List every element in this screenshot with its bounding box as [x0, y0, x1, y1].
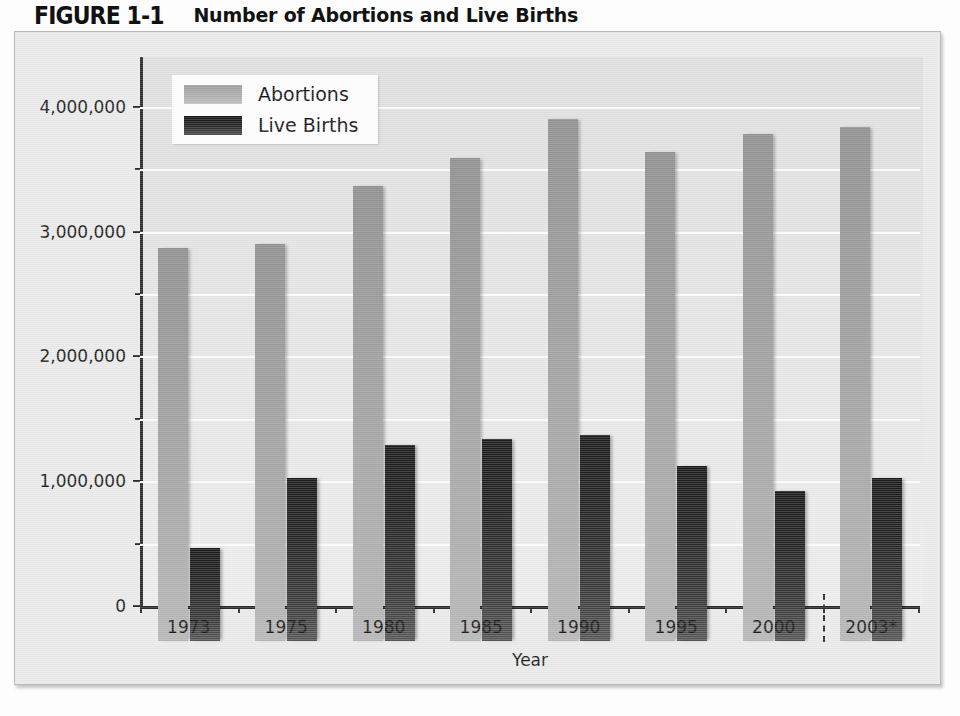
y-axis-minor-tick — [135, 293, 140, 295]
legend-item-abortions: Abortions — [184, 83, 358, 105]
bar-live-births-1990 — [580, 435, 610, 641]
y-axis-tick-label: 1,000,000 — [39, 471, 126, 491]
x-axis-title: Year — [140, 650, 920, 670]
x-axis-tick — [238, 606, 240, 613]
figure-heading: FIGURE 1-1 Number of Abortions and Live … — [34, 0, 578, 30]
x-axis-tick-label: 1980 — [362, 617, 405, 637]
y-axis-minor-tick — [135, 168, 140, 170]
x-axis-tick — [725, 606, 727, 613]
bar-abortions-2003 — [840, 127, 870, 641]
y-axis-tick — [133, 231, 140, 233]
x-axis-tick — [433, 606, 435, 613]
legend-swatch-live-births — [184, 116, 242, 135]
bar-abortions-1990 — [548, 119, 578, 641]
bar-abortions-1985 — [450, 158, 480, 641]
y-axis-tick — [133, 605, 140, 607]
x-axis-tick — [918, 606, 920, 613]
plot-area: 01,000,0002,000,0003,000,0004,000,000 19… — [140, 57, 920, 641]
x-axis-tick-label: 1973 — [167, 617, 210, 637]
x-axis-tick-label: 1975 — [265, 617, 308, 637]
bar-abortions-1975 — [255, 244, 285, 641]
x-axis-tick-label: 1995 — [655, 617, 698, 637]
y-axis-tick-label: 2,000,000 — [39, 346, 126, 366]
x-axis-tick — [335, 606, 337, 613]
x-axis-tick-label: 2003* — [845, 617, 897, 637]
y-axis-tick-label: 4,000,000 — [39, 97, 126, 117]
x-axis-tick — [628, 606, 630, 613]
x-axis-tick-label: 1990 — [557, 617, 600, 637]
bar-abortions-1973 — [158, 248, 188, 641]
chart-legend: Abortions Live Births — [172, 75, 378, 144]
projection-divider — [823, 594, 827, 642]
bar-live-births-1980 — [385, 445, 415, 641]
y-axis-tick-label: 3,000,000 — [39, 222, 126, 242]
bar-abortions-1995 — [645, 152, 675, 641]
x-axis-tick-label: 1985 — [460, 617, 503, 637]
chart-plate: 01,000,0002,000,0003,000,0004,000,000 19… — [14, 31, 941, 685]
bar-abortions-2000 — [743, 134, 773, 641]
legend-label-live-births: Live Births — [258, 114, 358, 136]
y-axis-tick — [133, 480, 140, 482]
figure-title: Number of Abortions and Live Births — [193, 4, 578, 26]
bar-live-births-1985 — [482, 439, 512, 641]
y-axis-tick — [133, 355, 140, 357]
figure-page: FIGURE 1-1 Number of Abortions and Live … — [0, 0, 960, 716]
figure-number: FIGURE 1-1 — [34, 1, 164, 30]
legend-swatch-abortions — [184, 85, 242, 104]
x-axis-tick — [140, 606, 142, 613]
legend-label-abortions: Abortions — [258, 83, 349, 105]
x-axis-tick-label: 2000 — [752, 617, 795, 637]
bar-live-births-1995 — [677, 466, 707, 641]
y-axis-tick — [133, 106, 140, 108]
y-axis-minor-tick — [135, 418, 140, 420]
y-axis-tick-label: 0 — [115, 596, 126, 616]
x-axis-tick — [530, 606, 532, 613]
gridline — [140, 169, 920, 171]
bar-abortions-1980 — [353, 186, 383, 641]
y-axis-minor-tick — [135, 543, 140, 545]
gridline — [140, 232, 920, 234]
legend-item-live-births: Live Births — [184, 114, 358, 136]
